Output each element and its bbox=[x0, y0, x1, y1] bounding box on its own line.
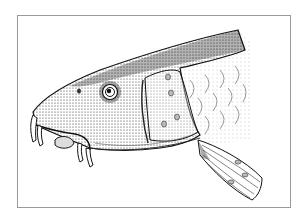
pectoral-fin bbox=[198, 140, 262, 200]
fish-illustration bbox=[0, 0, 307, 220]
eye bbox=[99, 81, 121, 103]
